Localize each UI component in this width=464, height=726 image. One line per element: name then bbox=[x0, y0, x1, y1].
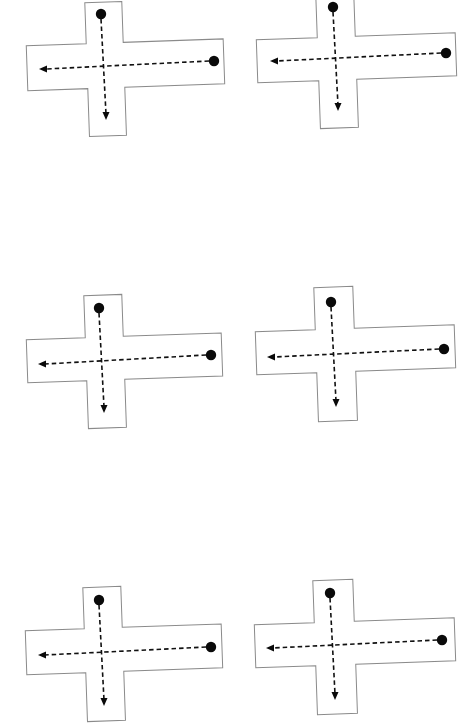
cross-outline bbox=[25, 291, 225, 431]
start-dot-top bbox=[94, 303, 104, 313]
start-dot-top bbox=[328, 2, 338, 12]
start-dot-right bbox=[206, 642, 216, 652]
start-dot-right bbox=[206, 350, 216, 360]
cross-outline bbox=[253, 576, 458, 717]
start-dot-top bbox=[325, 588, 335, 598]
cross-figure bbox=[24, 583, 225, 724]
cross-figure bbox=[253, 576, 458, 717]
cross-figure bbox=[255, 0, 458, 131]
cross-outline bbox=[255, 0, 458, 131]
start-dot-top bbox=[94, 595, 104, 605]
start-dot-right bbox=[437, 635, 447, 645]
cross-diagram-canvas bbox=[0, 0, 464, 726]
start-dot-right bbox=[209, 56, 219, 66]
start-dot-top bbox=[326, 297, 336, 307]
start-dot-right bbox=[439, 344, 449, 354]
start-dot-right bbox=[441, 48, 451, 58]
start-dot-top bbox=[96, 9, 106, 19]
cross-outline bbox=[24, 583, 225, 724]
cross-figure bbox=[25, 291, 225, 431]
